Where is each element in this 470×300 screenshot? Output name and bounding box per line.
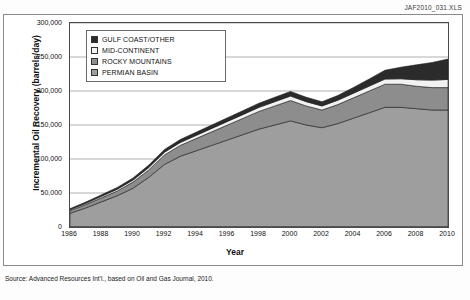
legend-swatch-mid-continent <box>91 47 98 54</box>
legend-item-0: GULF COAST/OTHER <box>91 34 220 45</box>
x-axis-tick-1994: 1994 <box>187 230 203 237</box>
x-axis-tick-1992: 1992 <box>156 230 172 237</box>
x-axis-tick-1996: 1996 <box>219 230 235 237</box>
chart-figure: JAF2010_031.XLS Incremental Oil Recovery… <box>0 0 470 300</box>
legend-item-3: PERMIAN BASIN <box>91 67 220 78</box>
x-axis-tick-1998: 1998 <box>250 230 266 237</box>
legend-item-1: MID-CONTINENT <box>91 45 220 56</box>
x-axis-tick-1986: 1986 <box>61 230 77 237</box>
x-axis-tick-2004: 2004 <box>345 230 361 237</box>
x-axis-title: Year <box>0 247 470 257</box>
legend-item-label: ROCKY MOUNTAINS <box>102 58 172 65</box>
workbook-code-label: JAF2010_031.XLS <box>404 4 462 11</box>
y-axis-tick-100000: 100,000 <box>26 155 62 162</box>
x-axis-tick-2006: 2006 <box>376 230 392 237</box>
legend-item-label: MID-CONTINENT <box>102 47 159 54</box>
y-axis-tick-50000: 50,000 <box>26 189 62 196</box>
y-axis-tick-250000: 250,000 <box>26 53 62 60</box>
legend-item-label: PERMIAN BASIN <box>102 69 158 76</box>
y-axis-tick-300000: 300,000 <box>26 19 62 26</box>
y-axis-tick-200000: 200,000 <box>26 87 62 94</box>
x-axis-tick-2008: 2008 <box>408 230 424 237</box>
y-axis-tick-0: 0 <box>26 223 62 230</box>
x-axis-tick-1988: 1988 <box>93 230 109 237</box>
x-axis-tick-2002: 2002 <box>313 230 329 237</box>
x-axis-tick-labels: 1986198819901992199419961998200020022004… <box>0 230 470 244</box>
legend-item-label: GULF COAST/OTHER <box>102 36 175 43</box>
chart-legend: GULF COAST/OTHERMID-CONTINENTROCKY MOUNT… <box>86 30 226 82</box>
source-note: Source: Advanced Resources Int'l., based… <box>5 275 214 282</box>
legend-swatch-permian-basin <box>91 69 98 76</box>
x-axis-tick-2000: 2000 <box>282 230 298 237</box>
legend-swatch-rocky-mountains <box>91 58 98 65</box>
x-axis-tick-2010: 2010 <box>439 230 455 237</box>
legend-item-2: ROCKY MOUNTAINS <box>91 56 220 67</box>
x-axis-tick-1990: 1990 <box>124 230 140 237</box>
legend-swatch-gulf-coast <box>91 36 98 43</box>
y-axis-tick-150000: 150,000 <box>26 121 62 128</box>
